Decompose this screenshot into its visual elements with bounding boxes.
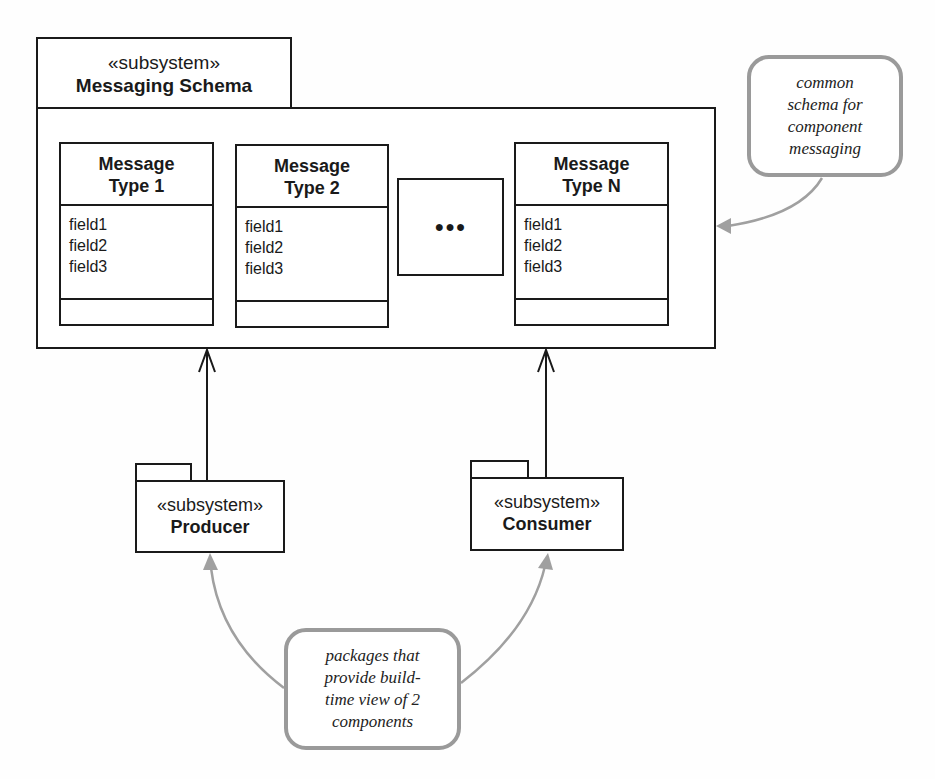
note-line: common	[751, 72, 899, 94]
class-attributes: field1 field2 field3	[516, 206, 667, 300]
note-line: provide build-	[288, 667, 457, 689]
producer-package[interactable]: «subsystem» Producer	[135, 480, 285, 553]
class-name-line1: Message	[237, 155, 387, 177]
packages-note: packages that provide build- time view o…	[284, 628, 461, 750]
producer-name: Producer	[137, 516, 283, 538]
class-message-type-1[interactable]: Message Type 1 field1 field2 field3	[59, 142, 214, 326]
class-name-line2: Type N	[516, 175, 667, 197]
class-name-line1: Message	[516, 153, 667, 175]
class-message-type-2[interactable]: Message Type 2 field1 field2 field3	[235, 144, 389, 328]
schema-package-title: «subsystem» Messaging Schema	[38, 39, 290, 97]
attribute: field2	[245, 237, 387, 258]
class-attributes: field1 field2 field3	[237, 208, 387, 302]
class-message-type-n[interactable]: Message Type N field1 field2 field3	[514, 142, 669, 326]
ellipsis-box: ●●●	[397, 178, 504, 276]
schema-package-stereotype: «subsystem»	[38, 51, 290, 74]
attribute: field2	[69, 235, 212, 256]
consumer-package[interactable]: «subsystem» Consumer	[470, 477, 624, 551]
attribute: field1	[524, 214, 667, 235]
producer-stereotype: «subsystem»	[137, 494, 283, 516]
ellipsis-icon: ●●●	[435, 218, 467, 236]
note-line: time view of 2	[288, 689, 457, 711]
consumer-arrowhead-icon	[538, 350, 554, 372]
consumer-note-arrowhead-icon	[538, 553, 553, 570]
schema-note-arrowhead-icon	[716, 218, 731, 234]
schema-note: common schema for component messaging	[747, 55, 903, 177]
attribute: field2	[524, 235, 667, 256]
attribute: field3	[69, 256, 212, 277]
class-name-line2: Type 1	[61, 175, 212, 197]
attribute: field3	[524, 256, 667, 277]
attribute: field3	[245, 258, 387, 279]
packages-note-arrow-producer	[211, 568, 284, 688]
note-line: component	[751, 116, 899, 138]
packages-note-arrow-consumer	[461, 566, 545, 683]
note-line: packages that	[288, 645, 457, 667]
attribute: field1	[69, 214, 212, 235]
consumer-package-title: «subsystem» Consumer	[472, 479, 622, 535]
attribute: field1	[245, 216, 387, 237]
class-name-line2: Type 2	[237, 177, 387, 199]
schema-note-arrow	[728, 178, 822, 226]
schema-package-name: Messaging Schema	[38, 74, 290, 97]
class-name-line1: Message	[61, 153, 212, 175]
class-header: Message Type N	[516, 144, 667, 206]
class-attributes: field1 field2 field3	[61, 206, 212, 300]
producer-arrowhead-icon	[199, 350, 215, 372]
class-header: Message Type 2	[237, 146, 387, 208]
note-line: messaging	[751, 138, 899, 160]
consumer-stereotype: «subsystem»	[472, 491, 622, 513]
class-header: Message Type 1	[61, 144, 212, 206]
schema-package-tab: «subsystem» Messaging Schema	[36, 37, 292, 109]
producer-note-arrowhead-icon	[203, 553, 218, 570]
note-line: schema for	[751, 94, 899, 116]
consumer-name: Consumer	[472, 513, 622, 535]
producer-package-title: «subsystem» Producer	[137, 482, 283, 538]
note-line: components	[288, 711, 457, 733]
